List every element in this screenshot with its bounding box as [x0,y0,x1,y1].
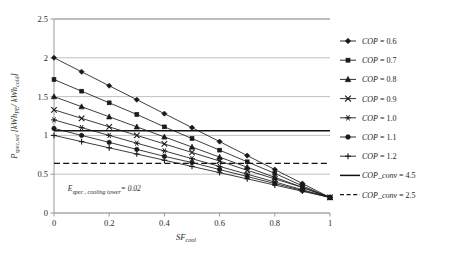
data-point-square [245,160,249,164]
x-tick-label: 0 [52,218,56,228]
data-point-circle [52,126,56,130]
legend-label: COP_conv = 4.5 [362,171,416,180]
data-point-square [52,78,56,82]
x-tick-label: 0.8 [269,218,280,228]
x-tick-label: 0.6 [214,218,225,228]
data-point-square [135,113,139,117]
data-point-square [190,137,194,141]
y-tick-label: 2.5 [37,14,48,24]
legend-label: COP = 0.8 [362,75,397,84]
data-point-square [163,125,167,129]
x-tick-label: 1 [328,218,332,228]
y-tick-label: 1.5 [37,92,48,102]
chart-figure: 00.20.40.60.8100.511.522.5SFcoolPspec,so… [0,0,452,259]
legend-label: COP = 1.2 [362,152,397,161]
data-point-circle [107,140,111,144]
legend-label: COP = 0.7 [362,56,397,65]
legend-label: COP_conv = 2.5 [362,191,416,200]
y-tick-label: 2 [44,53,48,63]
data-point-circle [346,135,351,140]
legend-label: COP = 0.9 [362,95,397,104]
data-point-square [346,58,350,62]
data-point-square [80,89,84,93]
data-point-square [107,101,111,105]
y-tick-label: 0.5 [37,169,48,179]
y-tick-label: 0 [44,208,48,218]
legend-label: COP = 0.6 [362,37,397,46]
data-point-circle [135,147,139,151]
data-point-square [218,148,222,152]
data-point-circle [79,133,83,137]
x-tick-label: 0.2 [104,218,115,228]
y-tick-label: 1 [44,130,48,140]
x-tick-label: 0.4 [159,218,170,228]
legend-label: COP = 1.1 [362,133,397,142]
legend-label: COP = 1.0 [362,114,397,123]
